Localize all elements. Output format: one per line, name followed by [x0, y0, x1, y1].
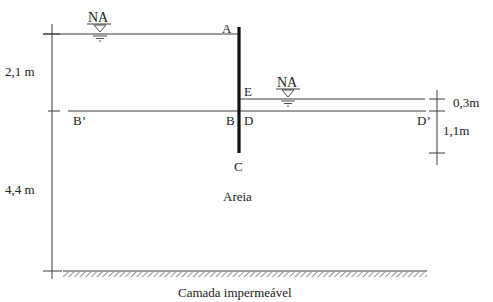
point-a-label: A: [222, 21, 232, 36]
point-d-label: D: [244, 113, 253, 128]
diagram-canvas: NA NA A E B D B’ D’ C Areia Camada imper…: [0, 0, 493, 302]
point-e-label: E: [244, 84, 252, 99]
na-label-upstream: NA: [88, 10, 109, 25]
dim-left-upper: 2,1 m: [5, 64, 35, 79]
base-layer-label: Camada impermeável: [178, 285, 292, 300]
point-b-prime-label: B’: [73, 113, 86, 128]
dim-right-upper: 0,3m: [453, 95, 479, 110]
left-dimension-axis: [43, 24, 62, 279]
dim-left-lower: 4,4 m: [5, 182, 35, 197]
na-label-downstream: NA: [277, 75, 298, 90]
point-b-label: B: [226, 113, 235, 128]
soil-label: Areia: [223, 189, 252, 204]
water-level-icon-downstream: [276, 89, 300, 106]
water-level-icon-upstream: [87, 24, 111, 41]
impermeable-layer: [63, 271, 427, 277]
point-c-label: C: [234, 159, 243, 174]
dim-right-lower: 1,1m: [443, 123, 469, 138]
point-d-prime-label: D’: [417, 113, 431, 128]
